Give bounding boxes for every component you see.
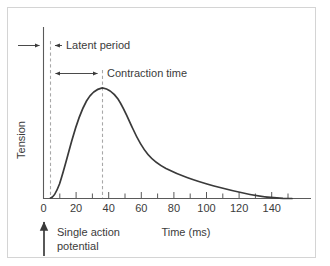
muscle-twitch-figure: 0 20 40 60 80 100 120 140 Time (ms) Tens… xyxy=(0,0,330,266)
x-tick-label-0: 0 xyxy=(40,202,46,214)
stimulus-label-line2: potential xyxy=(57,240,99,252)
x-axis-title: Time (ms) xyxy=(161,226,210,238)
x-tick-label-100: 100 xyxy=(197,202,215,214)
contraction-time-annotation: Contraction time xyxy=(56,67,188,79)
x-tick-label-40: 40 xyxy=(103,202,115,214)
x-tick-label-60: 60 xyxy=(135,202,147,214)
tension-time-plot: 0 20 40 60 80 100 120 140 Time (ms) Tens… xyxy=(0,0,330,266)
latent-period-annotation: Latent period xyxy=(18,39,130,51)
x-tick-labels: 0 20 40 60 80 100 120 140 xyxy=(40,202,280,214)
x-tick-label-120: 120 xyxy=(230,202,248,214)
x-tick-label-140: 140 xyxy=(263,202,281,214)
guide-lines xyxy=(51,41,103,198)
y-axis-title: Tension xyxy=(15,121,27,159)
x-tick-label-20: 20 xyxy=(70,202,82,214)
tension-curve xyxy=(51,88,293,199)
contraction-time-label: Contraction time xyxy=(107,67,187,79)
stimulus-label-line1: Single action xyxy=(57,226,120,238)
stimulus-annotation: Single action potential xyxy=(44,222,120,256)
x-tick-label-80: 80 xyxy=(168,202,180,214)
latent-period-label: Latent period xyxy=(66,39,130,51)
